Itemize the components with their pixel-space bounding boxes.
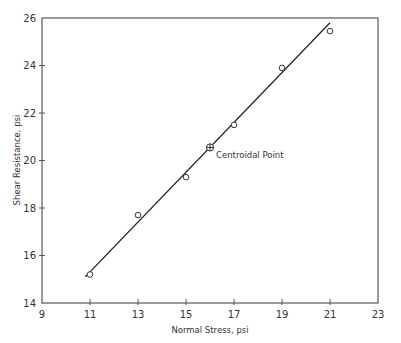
y-tick-label: 26 <box>23 13 36 24</box>
x-axis-ticks: 911131517192123 <box>39 299 385 320</box>
data-points <box>87 28 333 277</box>
data-point <box>183 174 189 180</box>
y-tick-label: 18 <box>23 203 36 214</box>
x-tick-label: 13 <box>132 309 145 320</box>
data-point <box>231 122 237 128</box>
y-tick-label: 16 <box>23 250 36 261</box>
centroidal-point-marker <box>206 144 213 151</box>
x-tick-label: 19 <box>276 309 289 320</box>
y-tick-label: 22 <box>23 108 36 119</box>
y-tick-label: 14 <box>23 298 36 309</box>
x-tick-label: 17 <box>228 309 241 320</box>
data-point <box>87 272 93 278</box>
x-axis-title: Normal Stress, psi <box>171 325 248 335</box>
y-tick-label: 20 <box>23 155 36 166</box>
centroidal-point-label: Centroidal Point <box>216 150 284 160</box>
data-point <box>327 28 333 34</box>
x-tick-label: 15 <box>180 309 193 320</box>
plot-frame <box>42 18 378 303</box>
x-tick-label: 9 <box>39 309 45 320</box>
x-tick-label: 11 <box>84 309 97 320</box>
data-point <box>135 212 141 218</box>
x-tick-label: 21 <box>324 309 337 320</box>
y-tick-label: 24 <box>23 60 36 71</box>
scatter-chart: 911131517192123 14161820222426 Centroida… <box>0 0 401 343</box>
y-axis-title: Shear Resistance, psi <box>12 115 22 206</box>
x-tick-label: 23 <box>372 309 385 320</box>
data-point <box>279 65 285 71</box>
